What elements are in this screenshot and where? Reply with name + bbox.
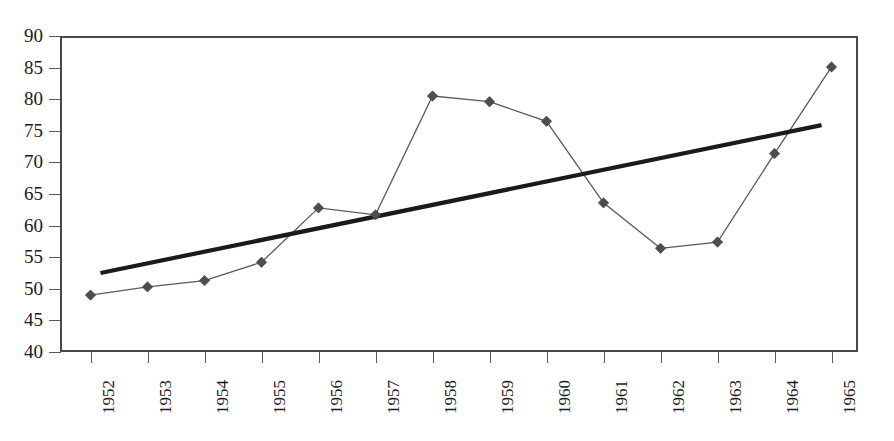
data-point-marker [484,97,494,107]
data-point-marker [142,282,152,292]
line-chart: 4045505560657075808590 19521953195419551… [0,0,894,441]
data-point-marker [712,237,722,247]
data-point-marker [769,148,779,158]
data-series-line [91,67,832,295]
data-point-marker [427,91,437,101]
trendline [101,125,822,273]
data-point-markers [85,62,836,301]
data-point-marker [541,116,551,126]
data-series-layer [0,0,894,441]
data-point-marker [826,62,836,72]
data-point-marker [85,290,95,300]
data-point-marker [199,275,209,285]
